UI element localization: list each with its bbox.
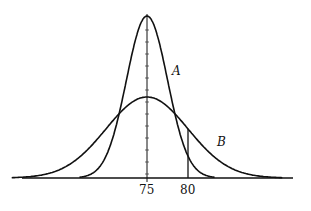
plot-area <box>0 0 311 211</box>
normal-curves-chart: A B 75 80 <box>0 0 311 211</box>
tick-80-label: 80 <box>180 183 195 197</box>
curve-b-label: B <box>217 135 226 149</box>
curve-a-label: A <box>172 64 181 78</box>
tick-75-label: 75 <box>139 183 154 197</box>
